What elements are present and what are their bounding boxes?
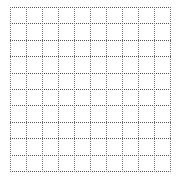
dotted-grid [0, 0, 177, 179]
grid-canvas [0, 0, 177, 179]
